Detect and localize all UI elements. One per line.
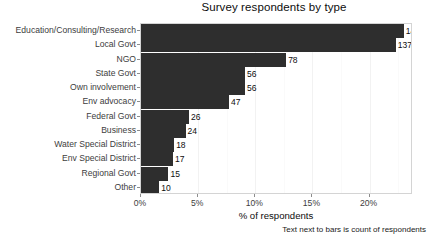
y-axis-label: Own involvement	[0, 82, 136, 92]
y-axis-label: Other	[0, 182, 136, 192]
x-axis-tick	[254, 194, 255, 197]
y-axis-tick	[137, 158, 140, 159]
bar-row[interactable]: 10	[141, 181, 412, 194]
plot-panel: 14113778565647262418171510	[140, 23, 412, 194]
y-axis-tick	[137, 59, 140, 60]
bar[interactable]	[141, 95, 229, 109]
y-axis-tick	[137, 144, 140, 145]
bar[interactable]	[141, 24, 404, 38]
bar-value-label: 47	[231, 96, 240, 108]
bar[interactable]	[141, 152, 173, 166]
y-axis-label: Business	[0, 125, 136, 135]
y-axis-tick	[137, 87, 140, 88]
bar-value-label: 17	[175, 153, 184, 165]
bar-value-label: 56	[247, 68, 256, 80]
bar-row[interactable]: 78	[141, 53, 412, 67]
bar-row[interactable]: 56	[141, 67, 412, 81]
x-axis-label: 10%	[246, 198, 263, 209]
y-axis-label: Water Special District	[0, 139, 136, 149]
bar[interactable]	[141, 38, 396, 52]
x-axis-tick	[311, 194, 312, 197]
y-axis-tick	[137, 101, 140, 102]
x-axis-tick	[197, 194, 198, 197]
bar-value-label: 26	[191, 111, 200, 123]
bar[interactable]	[141, 138, 174, 152]
y-axis-tick	[137, 116, 140, 117]
bar[interactable]	[141, 53, 286, 67]
y-axis-label: NGO	[0, 54, 136, 64]
y-axis-label: State Govt	[0, 68, 136, 78]
y-axis-label: Education/Consulting/Research	[0, 25, 136, 35]
y-axis-tick	[137, 130, 140, 131]
bar[interactable]	[141, 67, 245, 81]
y-axis-label: Regional Govt	[0, 168, 136, 178]
bar-value-label: 18	[176, 139, 185, 151]
bar-value-label: 15	[170, 168, 179, 180]
bar-row[interactable]: 47	[141, 95, 412, 109]
x-axis-title: % of respondents	[140, 210, 412, 221]
bar-value-label: 24	[188, 125, 197, 137]
bar-row[interactable]: 18	[141, 138, 412, 152]
x-axis-label: 0%	[134, 198, 146, 209]
x-axis-label: 20%	[360, 198, 377, 209]
bar-row[interactable]: 26	[141, 110, 412, 124]
bar[interactable]	[141, 81, 245, 95]
y-axis-label: Env advocacy	[0, 96, 136, 106]
bar[interactable]	[141, 110, 189, 124]
bar[interactable]	[141, 167, 168, 181]
y-axis-tick	[137, 187, 140, 188]
x-axis-label: 5%	[191, 198, 203, 209]
bar-row[interactable]: 24	[141, 124, 412, 138]
bar-value-label: 56	[247, 82, 256, 94]
bar-row[interactable]: 15	[141, 167, 412, 181]
bar-value-label: 78	[288, 54, 297, 66]
bar-row[interactable]: 17	[141, 152, 412, 166]
y-axis-label: Local Govt	[0, 39, 136, 49]
bar-value-label: 141	[406, 25, 412, 37]
bar-chart: Survey respondents by type 1411377856564…	[0, 0, 432, 244]
y-axis-tick	[137, 73, 140, 74]
bar[interactable]	[141, 181, 159, 194]
bar-row[interactable]: 56	[141, 81, 412, 95]
chart-caption: Text next to bars is count of respondent…	[282, 225, 426, 234]
chart-title: Survey respondents by type	[136, 1, 412, 13]
x-axis-tick	[369, 194, 370, 197]
y-axis-tick	[137, 173, 140, 174]
x-axis-label: 15%	[303, 198, 320, 209]
bar-value-label: 137	[398, 39, 412, 51]
y-axis-tick	[137, 30, 140, 31]
bar-row[interactable]: 141	[141, 24, 412, 38]
y-axis-label: Federal Govt	[0, 111, 136, 121]
bar-row[interactable]: 137	[141, 38, 412, 52]
x-axis-tick	[140, 194, 141, 197]
bar[interactable]	[141, 124, 186, 138]
y-axis-tick	[137, 44, 140, 45]
y-axis-label: Env Special District	[0, 153, 136, 163]
bar-value-label: 10	[161, 182, 170, 194]
